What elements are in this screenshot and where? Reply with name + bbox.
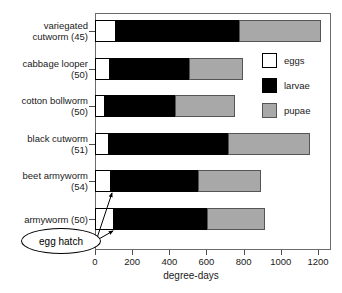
y-tick <box>89 181 95 182</box>
category-label: armyworm (50) <box>2 214 88 225</box>
category-label-line1: black cutworm <box>2 133 88 144</box>
bar-segment-larvae <box>114 208 207 230</box>
legend-item-eggs: eggs <box>262 50 328 71</box>
bar-segment-pupae <box>175 95 235 117</box>
y-tick <box>89 31 95 32</box>
bar-segment-eggs <box>95 58 110 80</box>
bar-segment-pupae <box>189 58 243 80</box>
egg-hatch-label: egg hatch <box>39 236 83 247</box>
y-tick <box>89 106 95 107</box>
y-tick <box>89 144 95 145</box>
category-label: cabbage looper(50) <box>2 58 88 80</box>
bar-segment-pupae <box>207 208 265 230</box>
category-label: cotton bollworm(50) <box>2 95 88 117</box>
bar-segment-pupae <box>228 133 310 155</box>
category-label-line1: armyworm (50) <box>2 214 88 225</box>
category-label-line1: variegated <box>2 20 88 31</box>
x-tick-label: 200 <box>124 256 140 267</box>
bar-segment-eggs <box>95 133 109 155</box>
legend-swatch-eggs <box>262 53 277 68</box>
legend-item-pupae: pupae <box>262 100 328 121</box>
category-label-line1: cotton bollworm <box>2 95 88 106</box>
x-tick <box>132 250 133 255</box>
category-label-line2: cutworm (45) <box>2 31 88 42</box>
bar-segment-larvae <box>111 170 198 192</box>
legend-label-eggs: eggs <box>284 55 305 66</box>
category-label: black cutworm(51) <box>2 133 88 155</box>
bar-segment-larvae <box>116 20 239 42</box>
bar-segment-pupae <box>198 170 261 192</box>
category-label-line1: beet armyworm <box>2 170 88 181</box>
bar-segment-eggs <box>95 20 116 42</box>
legend-item-larvae: larvae <box>262 75 328 96</box>
bar-segment-eggs <box>95 170 111 192</box>
category-label-line2: (54) <box>2 181 88 192</box>
category-label-line2: (51) <box>2 144 88 155</box>
legend: eggs larvae pupae <box>262 50 328 125</box>
x-tick-label: 800 <box>236 256 252 267</box>
chart-screenshot: variegatedcutworm (45)cabbage looper(50)… <box>0 0 342 293</box>
bar-segment-larvae <box>110 58 189 80</box>
x-tick-label: 1200 <box>307 256 328 267</box>
legend-swatch-pupae <box>262 103 277 118</box>
bar-segment-pupae <box>239 20 321 42</box>
x-tick-label: 400 <box>161 256 177 267</box>
category-label-line2: (50) <box>2 106 88 117</box>
category-label: variegatedcutworm (45) <box>2 20 88 42</box>
x-tick-label: 1000 <box>270 256 291 267</box>
x-tick <box>95 250 96 255</box>
x-tick-label: 600 <box>199 256 215 267</box>
category-label-line2: (50) <box>2 69 88 80</box>
egg-hatch-annotation: egg hatch <box>21 228 101 254</box>
legend-label-larvae: larvae <box>284 80 310 91</box>
x-tick <box>244 250 245 255</box>
x-tick <box>318 250 319 255</box>
bar-segment-larvae <box>105 95 175 117</box>
category-label: beet armyworm(54) <box>2 170 88 192</box>
x-tick <box>281 250 282 255</box>
y-tick <box>89 219 95 220</box>
bar-segment-larvae <box>109 133 228 155</box>
category-label-line1: cabbage looper <box>2 58 88 69</box>
x-tick <box>169 250 170 255</box>
x-axis-title: degree-days <box>0 270 342 281</box>
bar-segment-eggs <box>95 208 114 230</box>
y-tick <box>89 69 95 70</box>
legend-swatch-larvae <box>262 78 277 93</box>
bar-segment-eggs <box>95 95 105 117</box>
x-tick-label: 0 <box>92 256 97 267</box>
legend-label-pupae: pupae <box>284 105 310 116</box>
x-tick <box>206 250 207 255</box>
